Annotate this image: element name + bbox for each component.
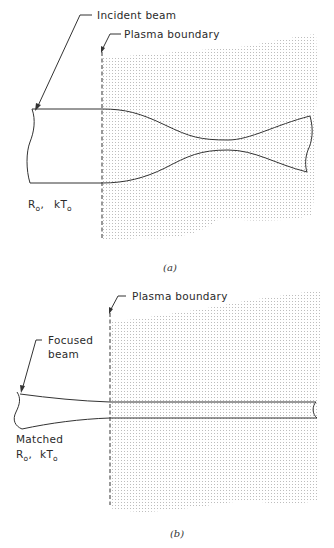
radius-symbol: R bbox=[16, 448, 24, 460]
temperature-subscript: o bbox=[67, 204, 72, 213]
plasma-boundary-label-a: Plasma boundary bbox=[124, 28, 220, 40]
arrow-head-icon bbox=[35, 103, 41, 111]
beam-left-end-a bbox=[27, 109, 34, 183]
incident-beam-leader bbox=[37, 15, 92, 108]
panel-b: Focused beam Plasma boundary Matched Ro,… bbox=[14, 290, 322, 539]
focused-beam-leader bbox=[22, 340, 42, 390]
focused-beam-label-line2: beam bbox=[48, 348, 79, 360]
svg-text:kTo: kTo bbox=[54, 198, 72, 213]
caption-a: (a) bbox=[163, 262, 177, 273]
plasma-region-a bbox=[102, 34, 318, 240]
plasma-region-b bbox=[110, 290, 322, 512]
beam-parameters-label-b: Ro, kTo bbox=[16, 448, 58, 463]
focused-beam-label-line1: Focused bbox=[48, 334, 93, 346]
temperature-symbol: kT bbox=[40, 448, 53, 460]
beam-parameters-label-a: Ro, kTo bbox=[28, 198, 72, 213]
matched-label: Matched bbox=[16, 433, 63, 445]
caption-b: (b) bbox=[170, 528, 184, 539]
panel-a: Incident beam Plasma boundary Ro, kTo (a… bbox=[27, 9, 318, 273]
beam-left-end-b bbox=[14, 392, 22, 429]
arrow-head-icon bbox=[101, 46, 105, 53]
svg-text:Ro,: Ro, bbox=[28, 198, 44, 213]
plasma-beam-diagram: Incident beam Plasma boundary Ro, kTo (a… bbox=[0, 0, 334, 548]
temperature-symbol: kT bbox=[54, 198, 67, 210]
arrow-head-icon bbox=[109, 307, 113, 314]
separator: , bbox=[41, 198, 45, 210]
separator: , bbox=[29, 448, 33, 460]
temperature-subscript: o bbox=[53, 454, 58, 463]
svg-text:kTo: kTo bbox=[40, 448, 58, 463]
plasma-boundary-label-b: Plasma boundary bbox=[132, 290, 228, 302]
incident-beam-label: Incident beam bbox=[97, 9, 176, 21]
radius-symbol: R bbox=[28, 198, 36, 210]
plasma-boundary-leader-a bbox=[102, 34, 121, 50]
svg-text:Ro,: Ro, bbox=[16, 448, 32, 463]
arrow-head-icon bbox=[20, 385, 25, 393]
